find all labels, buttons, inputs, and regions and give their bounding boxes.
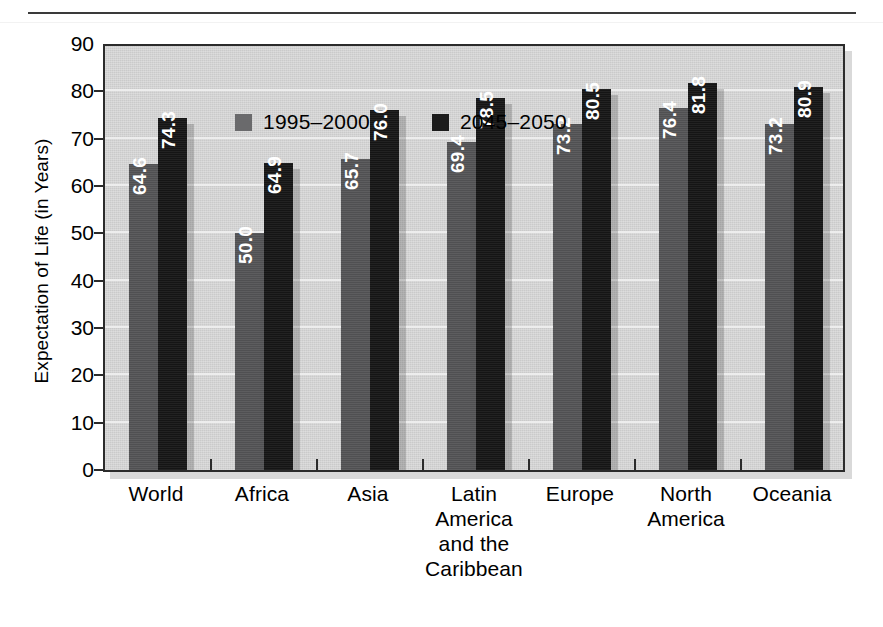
plot-area: 64.674.350.064.965.776.069.478.573.280.5… (103, 44, 845, 472)
bar-shadow (505, 104, 512, 470)
y-tick-label: 60 (54, 175, 94, 196)
bar-shadow (187, 124, 194, 470)
x-tick-mark (210, 459, 212, 470)
bar[interactable]: 80.5 (582, 89, 611, 470)
bar[interactable]: 64.6 (129, 164, 158, 470)
bar-body (794, 87, 823, 470)
bar-value-label: 64.9 (264, 169, 286, 198)
bar[interactable]: 76.4 (659, 108, 688, 470)
bar-body (447, 142, 476, 470)
x-axis-category-label-line: America (620, 506, 752, 531)
bar[interactable]: 65.7 (341, 159, 370, 470)
bar-shadow (293, 169, 300, 470)
x-axis-category-label-line: Oceania (726, 481, 858, 506)
bar[interactable]: 80.9 (794, 87, 823, 470)
y-axis-title: Expectation of Life (in Years) (31, 51, 53, 471)
legend-item-series-2[interactable]: 2045–2050 (432, 110, 567, 134)
legend: 1995–2000 2045–2050 (235, 110, 567, 134)
bar[interactable]: 74.3 (158, 118, 187, 470)
bar-value-label: 74.3 (158, 124, 180, 153)
legend-label-series-1: 1995–2000 (263, 110, 370, 134)
x-axis-category-label-line: and the (408, 531, 540, 556)
bar[interactable]: 69.4 (447, 142, 476, 470)
bar-body (158, 118, 187, 470)
y-tick-label: 70 (54, 128, 94, 149)
bar-body (476, 98, 505, 470)
page-rule-ghost (0, 22, 883, 23)
bar-body (688, 83, 717, 470)
bar[interactable]: 50.0 (235, 233, 264, 470)
x-axis-category-label: Oceania (726, 481, 858, 506)
bar-value-label: 50.0 (235, 239, 257, 268)
bar-value-label: 65.7 (341, 165, 363, 194)
y-tick-label: 0 (54, 459, 94, 480)
x-tick-mark (422, 459, 424, 470)
bar[interactable]: 76.0 (370, 110, 399, 470)
bar-body (129, 164, 158, 470)
y-tick-label: 40 (54, 270, 94, 291)
bar-body (659, 108, 688, 470)
bar[interactable]: 78.5 (476, 98, 505, 470)
bar-value-label: 76.4 (659, 114, 681, 143)
bar-shadow (717, 89, 724, 470)
legend-swatch-icon-series-1 (235, 114, 252, 131)
bar[interactable]: 64.9 (264, 163, 293, 470)
bar-body (264, 163, 293, 470)
x-axis-category-label-line: Caribbean (408, 556, 540, 581)
bar-body (341, 159, 370, 470)
gridline (105, 89, 843, 91)
y-tick-label: 80 (54, 80, 94, 101)
bar-value-label: 80.5 (582, 95, 604, 124)
bar-body (582, 89, 611, 470)
bar-value-label: 73.2 (765, 130, 787, 159)
bar-body (765, 124, 794, 470)
figure: Expectation of Life (in Years) 908070605… (0, 0, 883, 627)
legend-swatch-icon-series-2 (432, 114, 449, 131)
bar[interactable]: 73.2 (765, 124, 794, 470)
bar-body (235, 233, 264, 470)
bar-value-label: 80.9 (794, 93, 816, 122)
page-rule-divider (28, 12, 856, 14)
bar-body (370, 110, 399, 470)
bar[interactable]: 81.8 (688, 83, 717, 470)
x-tick-mark (740, 459, 742, 470)
y-tick-label: 10 (54, 412, 94, 433)
bar-shadow (611, 95, 618, 470)
legend-label-series-2: 2045–2050 (460, 110, 567, 134)
y-tick-label: 20 (54, 364, 94, 385)
y-tick-label: 50 (54, 222, 94, 243)
legend-item-series-1[interactable]: 1995–2000 (235, 110, 370, 134)
bar-body (553, 124, 582, 470)
bar-shadow (399, 116, 406, 470)
y-tick-label: 30 (54, 317, 94, 338)
bar[interactable]: 73.2 (553, 124, 582, 470)
gridline (105, 137, 843, 139)
bar-value-label: 81.8 (688, 89, 710, 118)
x-tick-mark (528, 459, 530, 470)
x-tick-mark (316, 459, 318, 470)
x-axis-category-label-line: America (408, 506, 540, 531)
y-tick-label: 90 (54, 33, 94, 54)
bar-shadow (823, 93, 830, 470)
bar-value-label: 69.4 (447, 148, 469, 177)
bar-value-label: 64.6 (129, 170, 151, 199)
x-tick-mark (634, 459, 636, 470)
